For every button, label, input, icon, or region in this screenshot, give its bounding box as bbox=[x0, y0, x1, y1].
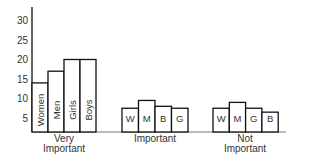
category-label: Important bbox=[224, 143, 266, 154]
y-tick-label: 10 bbox=[17, 93, 29, 104]
y-tick-label: 30 bbox=[17, 15, 29, 26]
category-labels: VeryImportantImportantNotImportant bbox=[43, 133, 266, 154]
bar-label: Boys bbox=[83, 99, 94, 120]
bar-label: B bbox=[160, 113, 166, 124]
bar-label: G bbox=[250, 113, 257, 124]
y-tick-label: 25 bbox=[17, 35, 29, 46]
bar-label: M bbox=[233, 113, 241, 124]
bars: WomenMenGirlsBoysWMBGWMGB bbox=[32, 60, 278, 133]
bar-label: W bbox=[217, 113, 226, 124]
y-tick-label: 20 bbox=[17, 54, 29, 65]
y-tick-label: 5 bbox=[22, 113, 28, 124]
bar-label: G bbox=[176, 113, 183, 124]
bar-label: M bbox=[143, 113, 151, 124]
category-label: Important bbox=[43, 143, 85, 154]
y-tick-label: 15 bbox=[17, 74, 29, 85]
category-label: Important bbox=[134, 133, 176, 144]
grouped-bar-chart: 51015202530 WomenMenGirlsBoysWMBGWMGB Ve… bbox=[0, 0, 310, 163]
bar-label: B bbox=[267, 113, 273, 124]
bar-label: Women bbox=[35, 94, 46, 127]
bar bbox=[64, 60, 80, 133]
bar-label: Girls bbox=[67, 100, 78, 120]
bar-label: W bbox=[126, 113, 135, 124]
bar-label: Men bbox=[51, 101, 62, 119]
